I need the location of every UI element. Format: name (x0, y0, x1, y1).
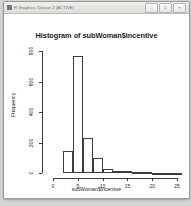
y-axis-tick-label: 800 (28, 41, 34, 61)
y-axis-tick (39, 173, 42, 174)
histogram-bar (93, 158, 103, 173)
minimize-button[interactable]: – (145, 3, 158, 13)
close-button[interactable]: × (173, 3, 186, 13)
screenshot-root: R Graphics: Device 2 (ACTIVE) – □ × Hist… (0, 0, 191, 206)
x-axis-tick (177, 178, 178, 181)
window-controls: – □ × (145, 3, 187, 13)
x-axis-line (53, 178, 177, 179)
plot-canvas: Histogram of subWoman$incentive subWoman… (4, 14, 189, 198)
histogram-bar (162, 173, 172, 175)
y-axis-tick-label: 0 (28, 163, 34, 183)
histogram-bar (73, 56, 83, 173)
window-titlebar[interactable]: R Graphics: Device 2 (ACTIVE) – □ × (4, 2, 189, 14)
y-axis-tick-label: 200 (28, 133, 34, 153)
histogram-bar (63, 151, 73, 173)
y-axis-tick (39, 143, 42, 144)
histogram-bar (172, 173, 182, 175)
r-graphics-icon (7, 5, 12, 10)
y-axis-tick (39, 51, 42, 52)
maximize-button[interactable]: □ (159, 3, 172, 13)
x-axis-tick-label: 5 (68, 183, 88, 189)
x-axis-tick-label: 15 (117, 183, 137, 189)
x-axis-tick (152, 178, 153, 181)
x-axis-tick-label: 10 (93, 183, 113, 189)
y-axis-tick-label: 600 (28, 72, 34, 92)
y-axis-line (42, 51, 43, 173)
y-axis-tick (39, 82, 42, 83)
histogram-bar (103, 169, 113, 173)
histogram-bar (83, 138, 93, 173)
x-axis-tick-label: 0 (43, 183, 63, 189)
y-axis-label: Frequency (10, 82, 16, 128)
histogram-bar (152, 173, 162, 175)
histogram-bar (122, 171, 132, 173)
histogram-bar (113, 171, 123, 173)
x-axis-tick (78, 178, 79, 181)
r-graphics-window: R Graphics: Device 2 (ACTIVE) – □ × Hist… (3, 1, 190, 199)
window-title: R Graphics: Device 2 (ACTIVE) (14, 5, 145, 10)
x-axis-tick (103, 178, 104, 181)
y-axis-tick (39, 112, 42, 113)
y-axis-tick-label: 400 (28, 102, 34, 122)
x-axis-tick (53, 178, 54, 181)
x-axis-tick-label: 25 (167, 183, 187, 189)
histogram-bar (132, 172, 142, 174)
histogram-bar (142, 172, 152, 174)
x-axis-tick (127, 178, 128, 181)
chart-title: Histogram of subWoman$incentive (4, 31, 189, 40)
x-axis-tick-label: 20 (142, 183, 162, 189)
